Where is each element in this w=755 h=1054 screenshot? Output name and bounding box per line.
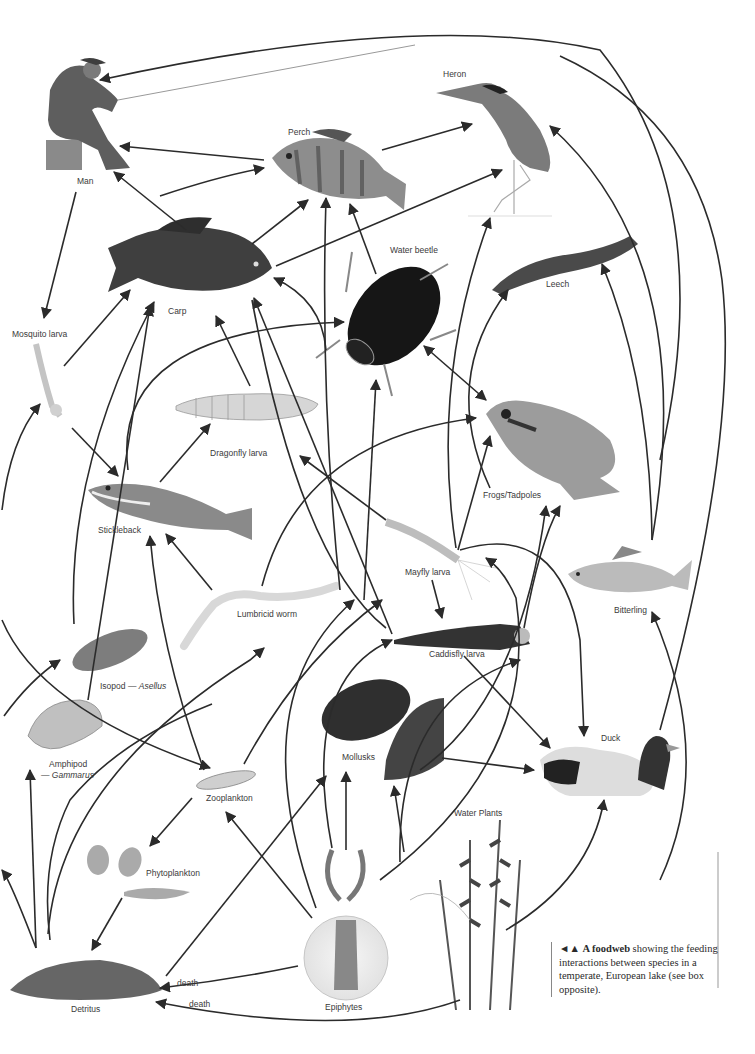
label-mayfly-larva: Mayfly larva bbox=[405, 568, 450, 578]
amphipod-illustration bbox=[28, 700, 102, 749]
epiphytes-illustration bbox=[304, 850, 388, 1000]
label-carp: Carp bbox=[168, 307, 186, 317]
caption-marker: ◄▲ bbox=[559, 943, 580, 954]
label-mollusks: Mollusks bbox=[342, 753, 375, 763]
label-water-beetle: Water beetle bbox=[390, 246, 438, 256]
duck-illustration bbox=[540, 736, 680, 796]
label-stickleback: Stickleback bbox=[98, 526, 141, 536]
isopod-illustration bbox=[67, 620, 153, 680]
label-epiphytes: Epiphytes bbox=[325, 1003, 362, 1013]
label-heron: Heron bbox=[443, 70, 466, 80]
label-perch: Perch bbox=[288, 128, 310, 138]
label-man: Man bbox=[77, 177, 94, 187]
bitterling-illustration bbox=[568, 546, 692, 592]
label-detritus: Detritus bbox=[71, 1005, 100, 1015]
label-lumbricid-worm: Lumbricid worm bbox=[237, 610, 297, 620]
label-isopod: Isopod — Asellus bbox=[100, 682, 166, 692]
label-phytoplankton: Phytoplankton bbox=[146, 869, 200, 879]
edge-label-death-water-plants: death bbox=[189, 1000, 210, 1010]
mayfly-larva-illustration bbox=[386, 522, 496, 600]
carp-illustration bbox=[108, 217, 272, 292]
label-dragonfly-larva: Dragonfly larva bbox=[210, 449, 267, 459]
mollusks-illustration bbox=[313, 668, 444, 780]
perch-illustration bbox=[272, 129, 406, 210]
detritus-illustration bbox=[10, 960, 162, 1000]
label-frogs-tadpoles: Frogs/Tadpoles bbox=[483, 491, 541, 501]
label-amphipod: Amphipod bbox=[49, 760, 87, 770]
label-water-plants: Water Plants bbox=[454, 809, 502, 819]
frog-illustration bbox=[486, 401, 620, 501]
label-isopod-name: Isopod — bbox=[100, 681, 139, 691]
label-mosquito-larva: Mosquito larva bbox=[12, 330, 67, 340]
zooplankton-illustration bbox=[195, 767, 257, 793]
caption-bold: A foodweb bbox=[582, 943, 630, 954]
label-caddisfly-larva: Caddisfly larva bbox=[429, 650, 485, 660]
water-plants-illustration bbox=[410, 820, 520, 1010]
label-leech: Leech bbox=[546, 280, 569, 290]
heron-illustration bbox=[436, 83, 552, 216]
label-bitterling: Bitterling bbox=[614, 606, 647, 616]
label-isopod-genus: Asellus bbox=[139, 681, 166, 691]
caddisfly-larva-illustration bbox=[394, 624, 530, 650]
edge-label-death-epiphytes: death bbox=[177, 979, 198, 989]
dragonfly-larva-illustration bbox=[176, 394, 318, 420]
figure-caption: ◄▲ A foodweb showing the feeding interac… bbox=[551, 942, 734, 997]
label-zooplankton: Zooplankton bbox=[206, 794, 253, 804]
label-amphipod-genus-text: — Gammarus bbox=[41, 770, 94, 780]
label-amphipod-genus: — Gammarus bbox=[41, 771, 94, 781]
label-duck: Duck bbox=[601, 734, 620, 744]
